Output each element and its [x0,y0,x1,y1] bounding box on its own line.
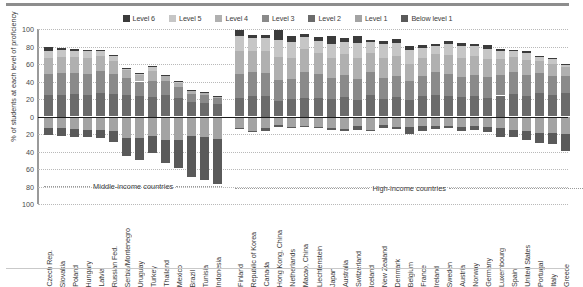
group-label: High-income countries [372,184,446,193]
segment-level-3 [248,72,257,95]
segment-below-level-1 [483,127,492,132]
segment-level-6 [44,47,53,50]
segment-level-6 [83,50,92,52]
segment-level-5 [366,42,375,52]
segment-level-6 [392,39,401,43]
segment-level-5 [509,51,518,57]
legend-label: Level 3 [272,14,294,23]
segment-level-1 [83,117,92,130]
segment-level-3 [96,71,105,93]
segment-level-3 [444,74,453,96]
segment-level-4 [213,97,222,98]
segment-level-2 [248,96,257,117]
segment-below-level-1 [213,139,222,183]
segment-level-3 [535,73,544,93]
segment-level-5 [83,51,92,58]
segment-below-level-1 [431,126,440,128]
segment-level-1 [300,117,309,127]
segment-level-1 [287,117,296,127]
x-label-portugal: Portugal [536,261,545,287]
segment-level-6 [548,58,557,59]
segment-level-1 [353,117,362,127]
segment-level-6 [96,50,105,51]
segment-level-3 [70,73,79,95]
segment-level-4 [509,57,518,72]
segment-level-4 [161,76,170,81]
segment-level-1 [57,117,66,129]
segment-level-2 [548,95,557,116]
segment-level-4 [83,58,92,74]
segment-level-5 [122,68,131,70]
segment-level-1 [122,117,131,139]
segment-below-level-1 [200,137,209,180]
segment-below-level-1 [496,128,505,137]
segment-level-4 [274,57,283,80]
segment-level-5 [392,43,401,56]
x-label-germany: Germany [484,258,493,287]
segment-level-2 [405,100,414,117]
x-label-japan: Japan [328,268,337,287]
legend-item-level-4: Level 4 [215,14,247,23]
segment-level-3 [261,73,270,96]
x-label-liechtenstein: Liechtenstein [315,246,324,287]
segment-level-1 [522,117,531,131]
segment-level-6 [300,34,309,37]
segment-level-5 [96,51,105,56]
x-label-canada: Canada [262,262,271,287]
legend-label: Level 5 [179,14,201,23]
segment-level-2 [174,98,183,116]
segment-level-3 [57,73,66,95]
segment-level-5 [314,41,323,53]
segment-level-6 [148,66,157,67]
segment-level-3 [340,75,349,97]
segment-below-level-1 [248,131,257,132]
segment-level-4 [122,70,131,78]
segment-level-3 [457,77,466,98]
segment-level-1 [248,117,257,131]
segment-level-2 [148,97,157,116]
segment-level-5 [483,49,492,60]
segment-level-4 [187,91,196,94]
segment-level-1 [444,117,453,126]
segment-level-3 [496,75,505,95]
segment-level-3 [287,79,296,99]
segment-level-5 [353,43,362,58]
segment-level-4 [261,51,270,73]
segment-level-4 [327,58,336,78]
segment-level-5 [261,38,270,51]
plot-area: Middle-income countriesHigh-income count… [38,29,568,204]
segment-level-1 [187,117,196,136]
segment-level-4 [248,51,257,73]
segment-level-4 [200,93,209,95]
segment-level-3 [353,79,362,100]
segment-level-5 [522,53,531,60]
x-label-denmark: Denmark [393,259,402,287]
segment-below-level-1 [457,127,466,132]
segment-level-4 [148,71,157,81]
segment-level-6 [535,56,544,57]
segment-level-6 [509,50,518,51]
segment-level-2 [287,99,296,117]
segment-level-6 [522,51,531,53]
segment-below-level-1 [57,128,66,136]
bottom-rule [6,268,569,269]
segment-level-3 [405,81,414,100]
segment-below-level-1 [274,125,283,126]
segment-level-3 [274,80,283,101]
segment-below-level-1 [109,131,118,142]
group-divider-high-income-countries: High-income countries [235,183,583,193]
segment-level-1 [200,117,209,137]
segment-level-2 [379,99,388,116]
segment-below-level-1 [470,126,479,130]
segment-below-level-1 [418,126,427,131]
segment-level-1 [96,117,105,131]
segment-level-2 [122,95,131,116]
segment-level-1 [418,117,427,127]
x-label-brazil: Brazil [188,270,197,287]
segment-level-1 [470,117,479,127]
segment-level-2 [135,96,144,116]
segment-level-6 [70,49,79,51]
x-label-latvia: Latvia [97,268,106,287]
segment-level-4 [353,58,362,79]
segment-level-2 [235,98,244,117]
